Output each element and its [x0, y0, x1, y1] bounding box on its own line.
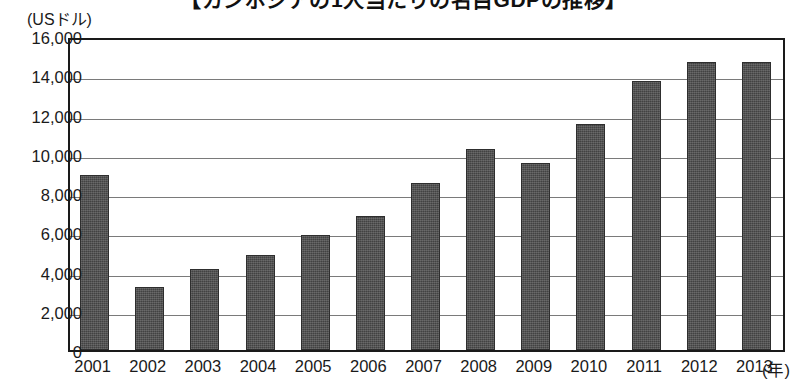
- bar: [632, 81, 661, 350]
- bar: [466, 149, 495, 350]
- y-axis-tick-label: 2,000: [0, 303, 82, 322]
- plot-area: [68, 38, 785, 352]
- chart-title: 【カンボジアの1人当たりの名目GDPの推移】: [0, 0, 807, 13]
- y-axis-tick-label: 10,000: [0, 146, 82, 165]
- gridline: [70, 119, 783, 120]
- chart-page: 【カンボジアの1人当たりの名目GDPの推移】 (USドル) 16,00014,0…: [0, 0, 807, 385]
- gridline: [70, 158, 783, 159]
- bar: [246, 255, 275, 350]
- y-axis-tick-label: 14,000: [0, 68, 82, 87]
- y-axis-tick-label: 4,000: [0, 264, 82, 283]
- y-axis-tick-label: 16,000: [0, 29, 82, 48]
- bar: [301, 235, 330, 350]
- bar: [742, 62, 771, 350]
- bar: [576, 124, 605, 350]
- bar: [135, 287, 164, 350]
- y-axis-tick-label: 12,000: [0, 107, 82, 126]
- bar: [521, 163, 550, 350]
- bar: [190, 269, 219, 350]
- bar: [687, 62, 716, 350]
- x-axis-unit-label: (年): [762, 357, 790, 381]
- y-axis-unit-label: (USドル): [27, 6, 92, 30]
- gridline: [70, 79, 783, 80]
- bar: [356, 216, 385, 350]
- y-axis-tick-label: 6,000: [0, 225, 82, 244]
- bar: [411, 183, 440, 350]
- y-axis-tick-label: 8,000: [0, 186, 82, 205]
- bar: [80, 175, 109, 350]
